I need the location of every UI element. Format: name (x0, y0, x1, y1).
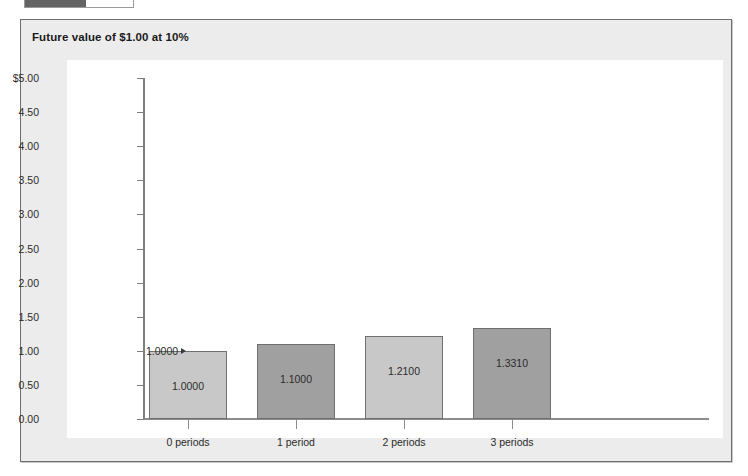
x-axis-category-label: 3 periods (457, 436, 567, 448)
value-callout: 1.0000 (146, 345, 186, 357)
y-axis-tick (137, 351, 145, 352)
bar-value-label: 1.1000 (258, 373, 334, 385)
y-axis-tick-label: 4.00 (0, 141, 39, 152)
y-axis-tick (137, 214, 145, 215)
y-axis-tick (137, 78, 145, 79)
y-axis-tick (137, 180, 145, 181)
x-axis-tick (296, 420, 297, 429)
x-axis-category-label: 2 periods (349, 436, 459, 448)
bar-value-label: 1.2100 (366, 365, 442, 377)
x-axis-tick (404, 420, 405, 429)
y-axis-tick (137, 317, 145, 318)
y-axis-tick-label: 2.50 (0, 244, 39, 255)
chart-panel: Future value of $1.00 at 10% 0.000.501.0… (20, 19, 732, 462)
x-axis-tick (188, 420, 189, 429)
value-callout-label: 1.0000 (146, 345, 178, 357)
bar: 1.2100 (365, 336, 443, 419)
y-axis-tick-label: 3.50 (0, 175, 39, 186)
y-axis-tick (137, 249, 145, 250)
x-axis-category-label: 1 period (241, 436, 351, 448)
y-axis-tick (137, 385, 145, 386)
x-axis-category-label: 0 periods (133, 436, 243, 448)
y-axis-tick-label: 0.50 (0, 380, 39, 391)
y-axis-tick-label: 3.00 (0, 209, 39, 220)
y-axis-tick-label: 4.50 (0, 107, 39, 118)
y-axis-tick-label: $5.00 (0, 73, 39, 84)
bar: 1.1000 (257, 344, 335, 419)
y-axis-tick (137, 146, 145, 147)
bar-value-label: 1.3310 (474, 357, 550, 369)
y-axis-tick-label: 2.00 (0, 278, 39, 289)
top-progress-bar[interactable] (24, 0, 134, 8)
bar: 1.0000 (149, 351, 227, 419)
y-axis-tick (137, 112, 145, 113)
y-axis-tick-label: 1.50 (0, 312, 39, 323)
arrow-right-icon (181, 348, 186, 354)
chart-plot-area: 0.000.501.001.502.002.503.003.504.004.50… (67, 60, 723, 438)
bar: 1.3310 (473, 328, 551, 419)
y-axis-tick (137, 419, 145, 420)
page-title: Future value of $1.00 at 10% (32, 31, 189, 43)
y-axis-tick (137, 283, 145, 284)
top-progress-bar-fill (25, 0, 86, 7)
y-axis-tick-label: 1.00 (0, 346, 39, 357)
y-axis-tick-label: 0.00 (0, 414, 39, 425)
x-axis-tick (512, 420, 513, 429)
bar-value-label: 1.0000 (150, 380, 226, 392)
